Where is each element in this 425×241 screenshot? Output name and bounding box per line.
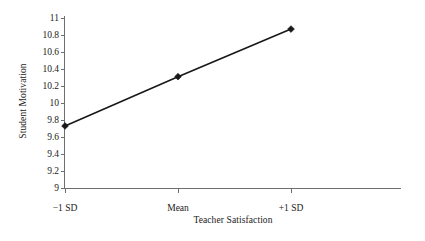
y-axis-tick-label: 10.4 — [42, 64, 59, 74]
data-point-marker — [288, 26, 295, 33]
x-axis-title: Teacher Satisfaction — [65, 215, 401, 225]
x-axis-tick-label: Mean — [167, 203, 189, 213]
chart-figure: Student Motivation 99.29.49.69.81010.210… — [0, 0, 425, 241]
y-axis-title: Student Motivation — [16, 6, 30, 196]
plot-area: 99.29.49.69.81010.210.410.610.811 −1 SDM… — [65, 18, 401, 188]
y-axis-tick-label: 10.2 — [42, 81, 59, 91]
y-axis-tick-label: 11 — [50, 13, 59, 23]
series-markers — [62, 26, 295, 130]
y-axis-tick-label: 10.6 — [42, 47, 59, 57]
y-axis-tick-label: 9.8 — [47, 115, 59, 125]
y-axis-tick-label: 9 — [54, 183, 59, 193]
x-axis-tick-label: +1 SD — [279, 203, 304, 213]
y-axis-tick-label: 9.4 — [47, 149, 59, 159]
y-axis-tick-label: 10.8 — [42, 30, 59, 40]
data-point-marker — [62, 123, 69, 130]
y-axis-tick-label: 9.2 — [47, 166, 59, 176]
y-axis-tick-label: 9.6 — [47, 132, 59, 142]
data-point-marker — [175, 73, 182, 80]
x-axis-tick — [178, 188, 179, 193]
x-axis-tick — [65, 188, 66, 193]
x-axis-tick — [291, 188, 292, 193]
y-axis-tick-label: 10 — [50, 98, 60, 108]
series-layer — [65, 18, 401, 188]
x-axis-tick-label: −1 SD — [53, 203, 78, 213]
x-axis-spine — [64, 188, 401, 189]
